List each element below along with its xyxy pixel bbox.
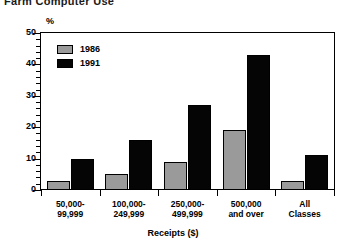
y-axis-tick-label: 30 <box>10 91 36 100</box>
bar-1986 <box>105 174 128 190</box>
chart-title: Farm Computer Use <box>4 0 114 7</box>
bar-1991 <box>247 55 270 190</box>
bar-1991 <box>188 105 211 190</box>
x-axis-tick-label: 500,000 and over <box>217 199 276 219</box>
x-axis-title: Receipts ($) <box>0 228 346 238</box>
y-axis-tick-label: 20 <box>10 122 36 131</box>
bar-1986 <box>47 181 70 190</box>
legend-swatch-icon <box>57 59 73 68</box>
legend-swatch-icon <box>57 45 73 54</box>
x-axis-tick <box>100 190 101 196</box>
chart-figure: Farm Computer Use % 01020304050 50,000- … <box>0 0 346 248</box>
y-axis-tick-label: 0 <box>10 185 36 194</box>
x-axis-tick-label: 50,000- 99,999 <box>41 199 100 219</box>
bar-group <box>158 33 217 190</box>
bar-1986 <box>164 162 187 190</box>
x-axis-tick-label: All Classes <box>275 199 334 219</box>
bar-1991 <box>129 140 152 190</box>
x-axis-tick <box>41 190 42 196</box>
bar-group <box>217 33 276 190</box>
y-axis-unit-label: % <box>46 17 54 26</box>
bar-1991 <box>71 159 94 190</box>
bar-1986 <box>223 130 246 190</box>
x-axis-tick-label: 250,000- 499,999 <box>158 199 217 219</box>
legend-label: 1991 <box>80 59 100 68</box>
x-axis-tick-label: 100,000- 249,999 <box>100 199 159 219</box>
y-axis-tick-label: 50 <box>10 28 36 37</box>
x-axis-tick <box>217 190 218 196</box>
legend-label: 1986 <box>80 45 100 54</box>
legend-item: 1986 <box>57 44 100 55</box>
y-axis-tick-label: 40 <box>10 59 36 68</box>
bar-1991 <box>305 155 328 190</box>
x-axis-tick <box>158 190 159 196</box>
y-axis-tick-label: 10 <box>10 154 36 163</box>
bar-group <box>275 33 334 190</box>
legend-item: 1991 <box>57 58 100 69</box>
chart-legend: 19861991 <box>57 44 100 72</box>
x-axis-tick <box>334 190 335 196</box>
bar-group <box>100 33 159 190</box>
bar-1986 <box>281 181 304 190</box>
x-axis-tick <box>275 190 276 196</box>
